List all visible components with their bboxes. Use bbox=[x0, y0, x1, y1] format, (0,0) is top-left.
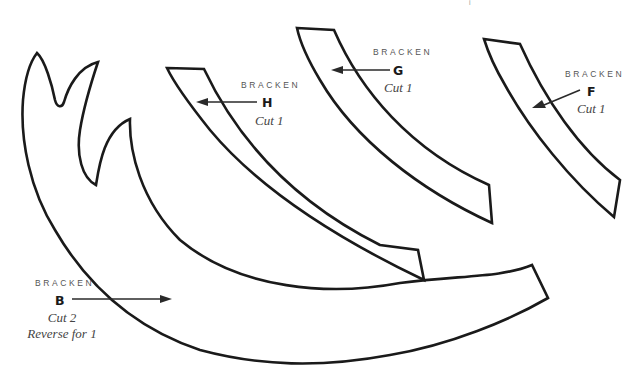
piece-f bbox=[484, 39, 620, 217]
piece-g-outline bbox=[297, 28, 492, 223]
arrow-head-h bbox=[196, 98, 208, 106]
cut-label-g: Cut 1 bbox=[384, 80, 413, 95]
piece-letter-b: B bbox=[55, 293, 65, 308]
piece-b bbox=[22, 53, 548, 364]
pattern-diagram: i BRACKEN B Cut 2 Reverse for 1 BRACKEN … bbox=[0, 0, 643, 391]
brand-label-g: BRACKEN bbox=[373, 47, 432, 57]
piece-g bbox=[297, 28, 492, 223]
label-h: BRACKEN H Cut 1 bbox=[196, 80, 300, 128]
arrow-head-g bbox=[331, 66, 343, 74]
brand-label-b: BRACKEN bbox=[35, 278, 94, 288]
cut-label-f: Cut 1 bbox=[577, 101, 606, 116]
piece-b-outline bbox=[22, 53, 548, 364]
piece-letter-f: F bbox=[587, 84, 596, 99]
brand-label-h: BRACKEN bbox=[241, 80, 300, 90]
corner-mark: i bbox=[469, 0, 471, 6]
piece-letter-h: H bbox=[262, 95, 272, 110]
cut-label-h: Cut 1 bbox=[255, 113, 284, 128]
arrow-head-b bbox=[160, 295, 172, 303]
cut-label-b: Cut 2 bbox=[48, 310, 77, 325]
piece-f-outline bbox=[484, 39, 620, 217]
reverse-note-b: Reverse for 1 bbox=[26, 326, 96, 341]
brand-label-f: BRACKEN bbox=[565, 69, 624, 79]
piece-letter-g: G bbox=[393, 63, 403, 78]
arrow-head-f bbox=[532, 100, 546, 108]
